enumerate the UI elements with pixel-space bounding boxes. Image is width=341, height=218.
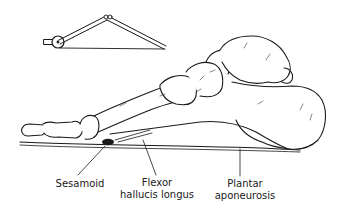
sesamoid-bone [102, 139, 114, 145]
windlass-schematic [44, 15, 166, 49]
label-plantar-line2: aponeurosis [200, 190, 290, 202]
label-plantar-line1: Plantar [200, 178, 290, 190]
label-sesamoid-text: Sesamoid [50, 178, 110, 190]
label-sesamoid: Sesamoid [50, 178, 110, 190]
windlass-cable [60, 48, 165, 49]
label-plantar-aponeurosis: Plantar aponeurosis [200, 178, 290, 202]
label-flexor-line2: hallucis longus [112, 189, 202, 201]
foot-skeleton [20, 36, 325, 152]
label-flexor-hallucis-longus: Flexor hallucis longus [112, 177, 202, 201]
windlass-pulley-hub [57, 41, 60, 44]
sesamoid-leader [78, 146, 105, 175]
label-flexor-line1: Flexor [112, 177, 202, 189]
